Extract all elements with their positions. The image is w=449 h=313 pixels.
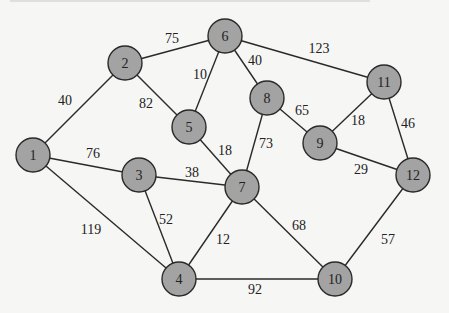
node-label: 10 (328, 272, 342, 287)
node-label: 2 (122, 56, 129, 71)
edge-1-2 (33, 63, 125, 155)
node-label: 8 (264, 91, 271, 106)
node-4: 4 (162, 262, 196, 296)
edge-weight-7-4: 12 (216, 232, 230, 247)
edge-weight-2-5: 82 (139, 96, 153, 111)
edge-weight-11-9: 18 (351, 113, 365, 128)
edge-weight-12-10: 57 (381, 232, 395, 247)
edge-12-10 (335, 175, 413, 279)
node-label: 7 (239, 180, 246, 195)
node-label: 9 (317, 136, 324, 151)
node-label: 4 (176, 272, 183, 287)
edge-weight-8-7: 73 (259, 136, 273, 151)
edge-weight-4-10: 92 (248, 282, 262, 297)
edge-weight-3-7: 38 (185, 165, 199, 180)
node-label: 1 (30, 148, 37, 163)
edge-weight-6-8: 40 (248, 53, 262, 68)
edge-weight-1-4: 119 (81, 222, 101, 237)
edge-weight-6-11: 123 (309, 41, 330, 56)
node-5: 5 (172, 110, 206, 144)
node-9: 9 (303, 126, 337, 160)
node-8: 8 (250, 81, 284, 115)
edge-weight-8-9: 65 (295, 103, 309, 118)
nodes-layer: 123456789101112 (16, 19, 430, 296)
node-label: 6 (222, 29, 229, 44)
edge-weight-9-12: 29 (354, 162, 368, 177)
node-1: 1 (16, 138, 50, 172)
node-label: 12 (406, 168, 420, 183)
edge-weight-3-4: 52 (159, 212, 173, 227)
node-7: 7 (225, 170, 259, 204)
edge-weight-6-5: 10 (193, 67, 207, 82)
node-11: 11 (367, 65, 401, 99)
edge-weight-7-10: 68 (292, 218, 306, 233)
edge-weight-2-6: 75 (165, 31, 179, 46)
node-6: 6 (208, 19, 242, 53)
node-label: 3 (136, 168, 143, 183)
node-3: 3 (122, 158, 156, 192)
edge-weight-5-7: 18 (218, 143, 232, 158)
edge-7-10 (242, 187, 335, 279)
node-label: 5 (186, 120, 193, 135)
node-2: 2 (108, 46, 142, 80)
node-10: 10 (318, 262, 352, 296)
node-label: 11 (377, 75, 390, 90)
weighted-graph-diagram: 4076119758210401231838527365184629126857… (0, 0, 449, 313)
node-12: 12 (396, 158, 430, 192)
edge-weight-1-3: 76 (86, 146, 100, 161)
edge-1-4 (33, 155, 179, 279)
edge-weight-1-2: 40 (58, 93, 72, 108)
edge-weight-11-12: 46 (401, 116, 415, 131)
